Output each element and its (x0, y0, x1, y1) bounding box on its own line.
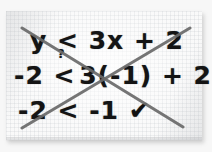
line-3-operator: < (58, 96, 80, 125)
equation-line-2: -2 ? < 3(-1) + 2 (14, 61, 212, 90)
paper-bottom-shadow (6, 137, 202, 142)
line-3-right-operand: -1 (89, 96, 119, 125)
equation-line-3: -2 < -1 ✔ (18, 96, 151, 125)
less-than-operator: < (54, 61, 76, 90)
line-2-right-operand: 3(-1) + 2 (79, 61, 212, 90)
line-3-left-operand: -2 (18, 96, 48, 125)
line-2-operator-group: ? < (54, 61, 70, 90)
line-2-left-operand: -2 (14, 61, 44, 90)
screenshot-root: y < 3x + 2 -2 ? < 3(-1) + 2 -2 < -1 ✔ (0, 0, 212, 152)
checkmark-icon: ✔ (129, 96, 151, 125)
question-mark-annotation: ? (54, 48, 70, 60)
